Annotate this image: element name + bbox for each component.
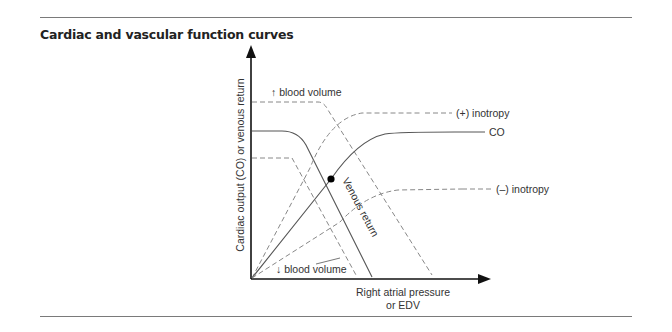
up-blood-volume-label: ↑ blood volume [271,86,342,98]
x-axis-arrow-icon [478,274,491,284]
bottom-divider [40,316,632,317]
positive-inotropy-curve [252,113,422,278]
venous-return-up-blood-volume-curve [252,102,432,275]
x-axis-label-line2: or EDV [386,299,420,311]
neg-inotropy-label: (–) inotropy [496,183,550,195]
x-axis-label-line1: Right atrial pressure [356,286,450,298]
y-axis-arrow-icon [246,45,256,58]
equilibrium-point-marker [327,175,334,182]
cardiac-vascular-chart: ↑ blood volume (+) inotropy CO (–) inotr… [0,0,672,332]
pos-inotropy-label: (+) inotropy [456,107,510,119]
y-axis-label: Cardiac output (CO) or venous return [234,78,246,251]
venous-return-down-blood-volume-curve [252,158,356,275]
y-axis [246,45,256,279]
venous-return-label: Venous return [340,175,381,239]
down-blood-volume-label: ↓ blood volume [276,263,347,275]
co-label: CO [489,126,505,138]
